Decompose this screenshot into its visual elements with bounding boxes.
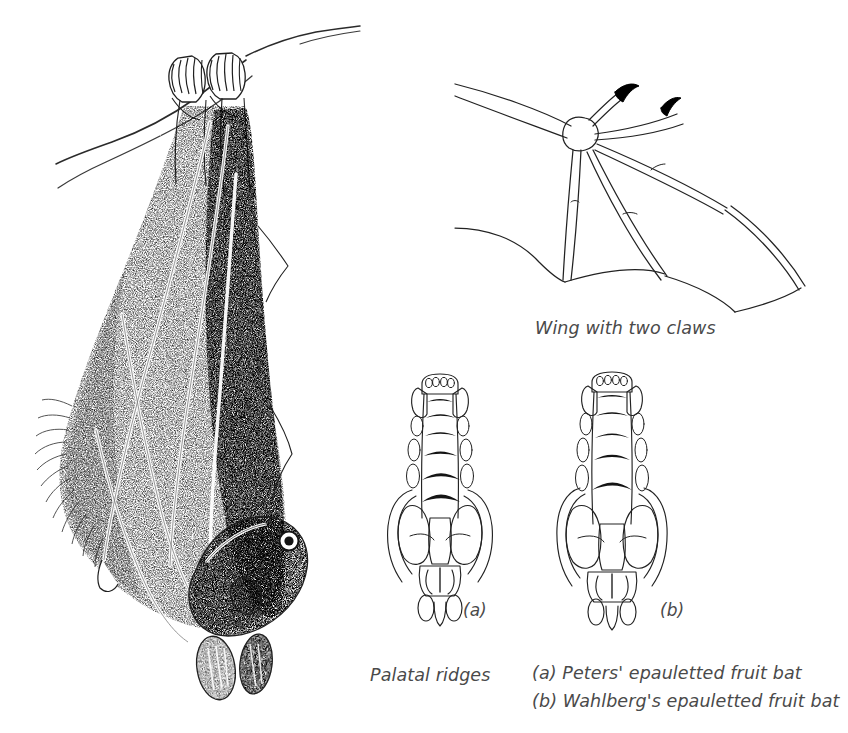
skull-a-figure xyxy=(382,368,498,630)
legend-item-a: (a) Peters' epauletted fruit bat xyxy=(532,665,802,683)
palatal-ridges xyxy=(422,399,460,502)
tooth-row-right xyxy=(457,416,474,488)
tooth-row-left xyxy=(407,416,424,488)
canine-left xyxy=(412,388,427,417)
canine-right xyxy=(453,388,468,417)
second-digit-claw xyxy=(661,97,681,116)
incisors xyxy=(426,377,455,387)
incisors xyxy=(597,375,628,385)
wing-leading-edge xyxy=(455,84,571,126)
membrane-scallop-4 xyxy=(735,288,801,312)
membrane-scallop-1 xyxy=(455,228,565,282)
wrist-joint xyxy=(563,117,599,151)
canine-left xyxy=(582,386,597,415)
thumb-claw xyxy=(615,84,639,102)
wing-caption: Wing with two claws xyxy=(535,320,716,338)
incisor-block xyxy=(422,374,458,394)
incisor-block xyxy=(592,372,632,392)
wing-figure xyxy=(455,22,848,312)
membrane-scallop-2 xyxy=(565,270,665,282)
tooth-row-left xyxy=(576,413,593,491)
canine-right xyxy=(627,386,642,415)
illustration-plate: Wing with two claws xyxy=(0,0,848,733)
palatal-ridges-caption: Palatal ridges xyxy=(370,667,490,685)
skull-b-tag: (b) xyxy=(660,600,684,620)
zygoma-right xyxy=(644,488,667,586)
hanging-bat-figure xyxy=(0,14,360,694)
skull-a-tag: (a) xyxy=(463,600,487,620)
palatal-ridges xyxy=(592,395,632,490)
zygoma-left xyxy=(557,488,580,586)
membrane-scallop-3 xyxy=(665,276,735,312)
legend-item-b: (b) Wahlberg's epauletted fruit bat xyxy=(532,693,839,711)
tooth-row-right xyxy=(632,413,649,491)
bat-eye xyxy=(280,532,299,551)
skull-b-figure xyxy=(552,368,672,630)
